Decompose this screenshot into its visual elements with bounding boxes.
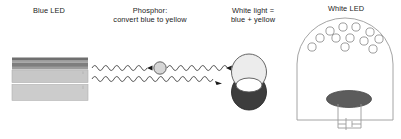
phosphor-dot: [326, 27, 334, 35]
led-layer-n: [12, 67, 88, 70]
phosphor-dot: [375, 35, 383, 43]
disc-overlap-highlight: [236, 78, 262, 92]
led-layer-p: [12, 61, 88, 63]
phosphor-dot: [316, 34, 324, 42]
blue-photon-wave-upper-left: [92, 66, 147, 71]
led-layer-stack: [12, 58, 88, 101]
phosphor-dot: [369, 45, 377, 53]
phosphor-dot: [366, 28, 374, 36]
phosphor-dot: [332, 34, 340, 42]
blue-photon-wave-upper-right: [167, 66, 228, 71]
arrowhead-lower-to-disc: [215, 81, 222, 85]
white-led-package: [297, 18, 393, 130]
phosphor-dot: [339, 23, 347, 31]
arrowhead-into-phosphor: [147, 66, 153, 71]
blue-led-chip: [327, 91, 372, 108]
white-led-diagram: Blue LED Phosphor: convert blue to yello…: [0, 0, 401, 139]
phosphor-dot: [341, 43, 349, 51]
phosphor-dot: [346, 34, 354, 42]
phosphor-particle: [154, 62, 166, 74]
diagram-graphics: [0, 0, 401, 139]
arrowhead-upper-to-disc: [226, 65, 232, 70]
led-layer-contact: [12, 58, 88, 61]
blue-photon-wave-lower: [92, 77, 213, 82]
led-layer-active: [12, 63, 88, 67]
led-layer-buffer: [12, 70, 88, 82]
phosphor-dot: [352, 23, 360, 31]
phosphor-dot: [360, 37, 368, 45]
phosphor-dot: [308, 43, 316, 51]
white-light-discs: [232, 54, 267, 110]
led-layer-substrate: [12, 84, 88, 100]
